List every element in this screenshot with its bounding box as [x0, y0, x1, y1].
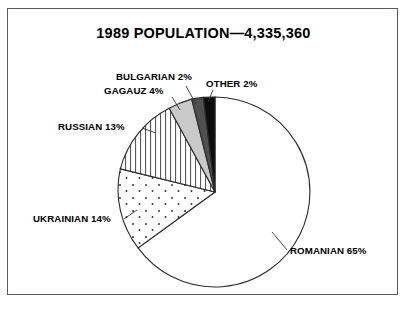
- slice-label-russian: RUSSIAN 13%: [58, 121, 125, 132]
- slice-label-other: OTHER 2%: [206, 78, 257, 89]
- slice-label-ukrainian: UKRAINIAN 14%: [33, 213, 111, 224]
- slice-label-bulgarian: BULGARIAN 2%: [116, 71, 192, 82]
- figure-root: 1989 POPULATION—4,335,360: [0, 0, 407, 310]
- slice-label-gagauz: GAGAUZ 4%: [104, 85, 164, 96]
- pie-chart: [0, 0, 407, 310]
- slice-label-romanian: ROMANIAN 65%: [290, 245, 367, 256]
